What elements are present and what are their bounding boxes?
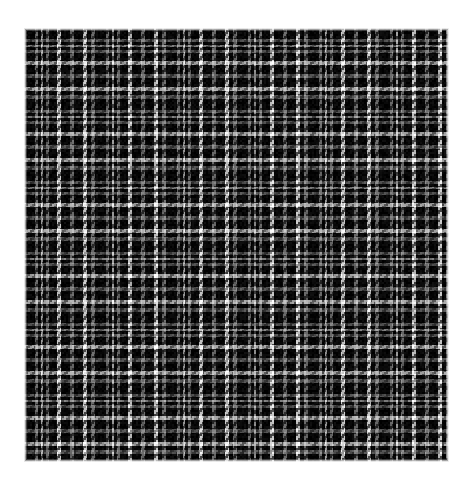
plaid-weave-canvas — [24, 28, 449, 462]
fabric-swatch-image — [0, 0, 473, 487]
